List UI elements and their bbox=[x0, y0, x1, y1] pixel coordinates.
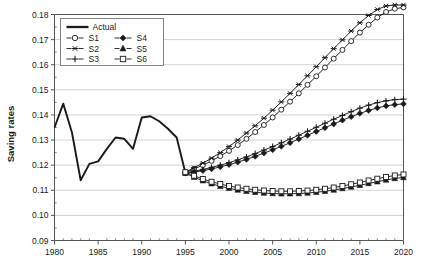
legend-label-actual: Actual bbox=[93, 22, 117, 32]
data-point-marker-open-circle bbox=[305, 82, 310, 87]
legend-label-s3: S3 bbox=[89, 54, 100, 64]
data-point-marker-open-square bbox=[192, 173, 197, 178]
data-point-marker-open-circle bbox=[296, 91, 301, 96]
legend-label-s5: S5 bbox=[137, 44, 148, 54]
data-point-marker-open-circle bbox=[357, 30, 362, 35]
chart-canvas: 198019851990199520002005201020152020 0.0… bbox=[0, 0, 427, 268]
data-point-marker-open-circle bbox=[340, 47, 345, 52]
y-tick-label: 0.14 bbox=[32, 110, 49, 120]
y-tick-label: 0.13 bbox=[32, 135, 49, 145]
y-tick-label: 0.11 bbox=[33, 185, 49, 195]
y-tick-label: 0.18 bbox=[32, 10, 49, 20]
data-point-marker-open-square bbox=[183, 170, 188, 175]
y-tick-label: 0.17 bbox=[32, 35, 49, 45]
data-point-marker-open-circle bbox=[253, 130, 258, 135]
data-point-marker-open-square bbox=[288, 189, 293, 194]
y-tick-label: 0.15 bbox=[32, 85, 49, 95]
data-point-marker-open-square bbox=[314, 187, 319, 192]
x-tick-label: 1990 bbox=[132, 247, 151, 257]
legend-label-s2: S2 bbox=[89, 44, 100, 54]
data-point-marker-open-circle bbox=[401, 5, 406, 10]
data-point-marker-open-circle bbox=[279, 107, 284, 112]
data-point-marker-open-square bbox=[253, 187, 258, 192]
data-point-marker-open-square bbox=[261, 188, 266, 193]
x-tick-label: 2005 bbox=[263, 247, 282, 257]
data-point-marker-open-circle bbox=[72, 35, 77, 40]
chart-legend: ActualS1S4S2S5S3S6 bbox=[61, 19, 164, 66]
data-point-marker-open-circle bbox=[331, 56, 336, 61]
data-point-marker-open-circle bbox=[261, 122, 266, 127]
y-tick-label: 0.09 bbox=[32, 236, 49, 246]
x-tick-label: 1995 bbox=[176, 247, 195, 257]
y-axis-title-group: Saving rates bbox=[5, 106, 16, 163]
data-point-marker-open-square bbox=[322, 186, 327, 191]
x-tick-label: 2020 bbox=[394, 247, 413, 257]
data-point-marker-open-circle bbox=[314, 74, 319, 79]
data-point-marker-open-square bbox=[235, 185, 240, 190]
data-point-marker-open-square bbox=[349, 182, 354, 187]
data-point-marker-open-square bbox=[384, 174, 389, 179]
data-point-marker-open-square bbox=[305, 188, 310, 193]
data-point-marker-open-square bbox=[392, 173, 397, 178]
x-tick-label: 1980 bbox=[45, 247, 64, 257]
legend-label-s1: S1 bbox=[89, 33, 100, 43]
saving-rates-chart: 198019851990199520002005201020152020 0.0… bbox=[0, 0, 427, 268]
data-point-marker-open-square bbox=[218, 182, 223, 187]
data-point-marker-open-circle bbox=[270, 115, 275, 120]
legend-label-s4: S4 bbox=[137, 33, 148, 43]
x-tick-label: 2010 bbox=[307, 247, 326, 257]
y-tick-label: 0.10 bbox=[32, 210, 49, 220]
data-point-marker-open-square bbox=[227, 184, 232, 189]
data-point-marker-open-square bbox=[120, 56, 125, 61]
data-point-marker-open-square bbox=[331, 185, 336, 190]
y-tick-label: 0.16 bbox=[32, 60, 49, 70]
x-tick-label: 2000 bbox=[220, 247, 239, 257]
data-point-marker-open-square bbox=[200, 176, 205, 181]
data-point-marker-open-square bbox=[279, 189, 284, 194]
x-tick-label: 2015 bbox=[350, 247, 369, 257]
data-point-marker-open-circle bbox=[322, 65, 327, 70]
data-point-marker-open-circle bbox=[235, 143, 240, 148]
data-point-marker-open-circle bbox=[227, 148, 232, 153]
legend-label-s6: S6 bbox=[137, 54, 148, 64]
data-point-marker-open-square bbox=[270, 189, 275, 194]
data-point-marker-open-square bbox=[375, 176, 380, 181]
data-point-marker-open-circle bbox=[366, 22, 371, 27]
x-tick-label: 1985 bbox=[89, 247, 108, 257]
data-point-marker-open-circle bbox=[244, 136, 249, 141]
data-point-marker-open-square bbox=[357, 180, 362, 185]
data-point-marker-open-square bbox=[366, 178, 371, 183]
data-point-marker-open-square bbox=[244, 186, 249, 191]
y-tick-label: 0.12 bbox=[32, 160, 49, 170]
data-point-marker-open-circle bbox=[288, 99, 293, 104]
data-point-marker-open-square bbox=[401, 172, 406, 177]
data-point-marker-open-square bbox=[296, 189, 301, 194]
y-axis-title: Saving rates bbox=[5, 106, 16, 163]
data-point-marker-open-circle bbox=[384, 9, 389, 14]
data-point-marker-open-square bbox=[209, 179, 214, 184]
data-point-marker-open-circle bbox=[349, 39, 354, 44]
data-point-marker-open-circle bbox=[375, 15, 380, 20]
data-point-marker-open-square bbox=[340, 184, 345, 189]
